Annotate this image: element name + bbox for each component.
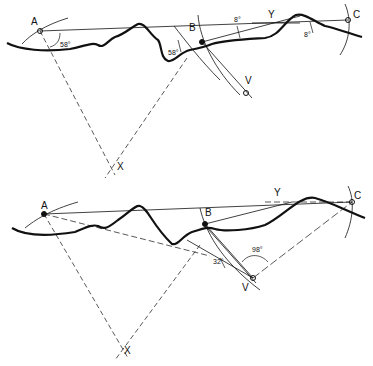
angle-C-top: 8°: [304, 31, 311, 38]
angle-V-small: 32°: [213, 258, 224, 265]
label-Y-bottom: Y: [274, 187, 281, 198]
label-C-bottom: C: [354, 190, 361, 201]
label-V-bottom: V: [242, 282, 249, 293]
label-A-bottom: A: [41, 200, 48, 211]
terrain-line: [12, 198, 365, 245]
angle-B-upper: 8°: [234, 16, 241, 23]
label-C-top: C: [353, 9, 360, 20]
survey-diagram: A B C Y V X 58° 58° 8° 8° A B C Y V X 32…: [0, 0, 373, 366]
label-X-bottom: X: [124, 345, 131, 356]
label-B-top: B: [189, 22, 196, 33]
label-X-top: X: [117, 161, 124, 172]
label-A-top: A: [31, 16, 38, 27]
angle-A-top: 58°: [60, 41, 71, 48]
angle-V-large: 98°: [252, 246, 263, 253]
angle-B-top: 58°: [168, 49, 179, 56]
label-Y-top: Y: [268, 9, 275, 20]
label-V-top: V: [245, 75, 252, 86]
label-B-bottom: B: [205, 207, 212, 218]
bottom-panel: [12, 186, 365, 360]
